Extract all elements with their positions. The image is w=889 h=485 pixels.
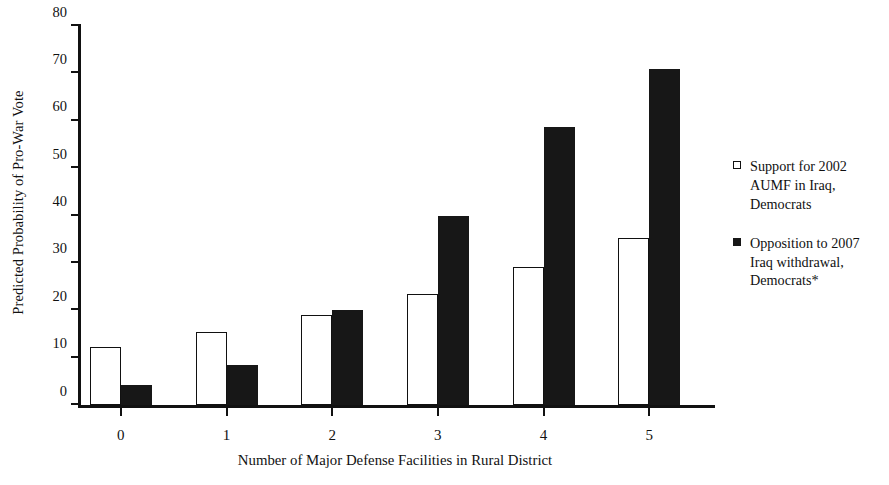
x-tick-3 [437, 407, 439, 416]
y-tick-mark [71, 119, 78, 121]
y-tick-label: 40 [53, 194, 68, 209]
y-tick-mark [71, 403, 78, 405]
bar-opposition-4 [544, 127, 575, 405]
x-axis-title: Number of Major Defense Facilities in Ru… [78, 452, 712, 469]
y-tick-mark [71, 261, 78, 263]
x-tick-label-4: 4 [540, 428, 548, 443]
x-axis-line [78, 405, 715, 408]
bar-opposition-2 [332, 310, 363, 405]
x-tick-label-2: 2 [328, 428, 336, 443]
bar-opposition-0 [121, 385, 152, 405]
legend-swatch-open-icon [733, 161, 741, 169]
bar-chart-figure: Predicted Probability of Pro-War Vote 01… [0, 0, 889, 485]
y-tick-mark [71, 308, 78, 310]
bar-support-5 [618, 238, 649, 405]
y-tick-mark [71, 356, 78, 358]
chart-legend: Support for 2002 AUMF in Iraq, Democrats… [733, 157, 883, 310]
y-tick-label: 10 [53, 336, 68, 351]
y-axis-title: Predicted Probability of Pro-War Vote [10, 0, 30, 405]
legend-label-support: Support for 2002 AUMF in Iraq, Democrats [750, 157, 883, 214]
y-tick-mark [71, 214, 78, 216]
x-tick-label-0: 0 [117, 428, 125, 443]
x-tick-2 [331, 407, 333, 416]
y-tick-label: 60 [53, 99, 68, 114]
x-tick-label-3: 3 [434, 428, 442, 443]
x-tick-0 [120, 407, 122, 416]
legend-entry-opposition: Opposition to 2007 Iraq withdrawal, Demo… [733, 234, 883, 291]
x-tick-1 [226, 407, 228, 416]
bar-support-0 [90, 347, 121, 405]
y-tick-mark [71, 71, 78, 73]
y-tick-label: 50 [53, 146, 68, 161]
bar-opposition-1 [227, 365, 258, 405]
x-tick-4 [543, 407, 545, 416]
y-tick-mark [71, 24, 78, 26]
bar-support-2 [301, 315, 332, 405]
x-tick-label-1: 1 [223, 428, 231, 443]
legend-label-opposition: Opposition to 2007 Iraq withdrawal, Demo… [750, 234, 883, 291]
y-tick-mark [71, 166, 78, 168]
plot-area: 01020304050607080 012345 [78, 26, 712, 405]
x-tick-label-5: 5 [645, 428, 653, 443]
y-tick-label: 20 [53, 289, 68, 304]
y-tick-label: 80 [53, 4, 68, 19]
bar-support-4 [513, 267, 544, 405]
x-tick-5 [648, 407, 650, 416]
bar-support-3 [407, 294, 438, 405]
y-tick-label: 70 [53, 52, 68, 67]
bar-support-1 [196, 332, 227, 405]
bar-opposition-5 [649, 69, 680, 405]
bar-opposition-3 [438, 216, 469, 405]
legend-entry-support: Support for 2002 AUMF in Iraq, Democrats [733, 157, 883, 214]
clipped-caption-line [18, 476, 578, 483]
y-tick-label: 30 [53, 241, 68, 256]
y-tick-label: 0 [60, 383, 67, 398]
y-axis-line [78, 24, 81, 407]
legend-swatch-filled-icon [733, 238, 741, 246]
